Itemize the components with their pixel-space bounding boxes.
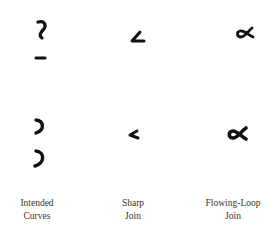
sharp-angle-icon [128,30,148,46]
flowing-loop-top-glyph [234,25,256,41]
label-line-1: Sharp [88,197,178,210]
label-intended-curves: Intended Curves [0,197,82,223]
curve-and-dash-icon [33,18,53,66]
alpha-loop-bold-icon [226,125,250,143]
intended-curves-top-glyph [33,18,53,66]
sharp-join-top-glyph [128,30,148,46]
label-line-1: Flowing-Loop [188,197,278,210]
sharp-angle-small-icon [127,128,143,142]
label-line-2: Curves [0,210,82,223]
label-sharp-join: Sharp Join [88,197,178,223]
two-curves-icon [32,118,52,170]
label-line-1: Intended [0,197,82,210]
label-line-2: Join [188,210,278,223]
sharp-join-bottom-glyph [127,128,143,142]
alpha-loop-icon [234,25,256,41]
label-flowing-loop-join: Flowing-Loop Join [188,197,278,223]
flowing-loop-bottom-glyph [226,125,250,143]
label-line-2: Join [88,210,178,223]
intended-curves-bottom-glyph [32,118,52,170]
